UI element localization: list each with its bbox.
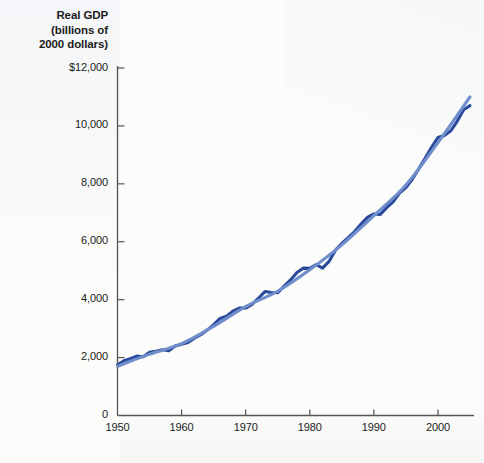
x-tick-label-1980: 1980 xyxy=(287,421,333,433)
x-tick-label-1970: 1970 xyxy=(223,421,269,433)
y-tick-label-0: 0 xyxy=(22,408,108,420)
x-tick-label-1990: 1990 xyxy=(351,421,397,433)
x-tick-label-1950: 1950 xyxy=(95,421,141,433)
x-tick-label-2000: 2000 xyxy=(415,421,461,433)
x-tick-label-1960: 1960 xyxy=(159,421,205,433)
y-tick-label-4000: 4,000 xyxy=(22,292,108,304)
y-tick-label-8000: 8,000 xyxy=(22,176,108,188)
data-series xyxy=(118,97,471,366)
trend-gdp-line xyxy=(118,97,471,366)
real-gdp-chart: Real GDP (billions of 2000 dollars) 02,0… xyxy=(0,0,484,463)
axis-lines xyxy=(118,66,475,416)
y-tick-label-2000: 2,000 xyxy=(22,350,108,362)
axis-tickmarks xyxy=(118,68,438,416)
y-tick-label-12000: $12,000 xyxy=(22,61,108,73)
y-tick-label-6000: 6,000 xyxy=(22,234,108,246)
actual-gdp-line xyxy=(118,106,471,365)
y-tick-label-10000: 10,000 xyxy=(22,118,108,130)
